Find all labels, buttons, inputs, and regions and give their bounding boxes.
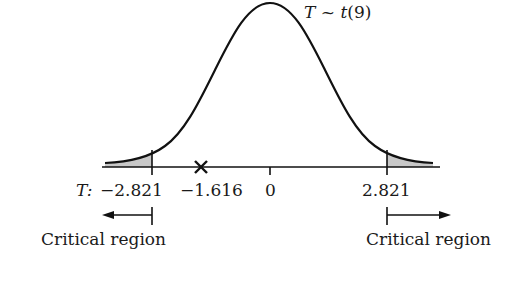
right-arrow-icon — [387, 207, 451, 225]
tick-label-pos-critical: 2.821 — [362, 182, 411, 199]
distribution-label: T ~ t(9) — [304, 4, 371, 21]
right-critical-region-label: Critical region — [366, 231, 491, 248]
left-arrow-icon — [102, 207, 152, 225]
tick-label-neg-critical: −2.821 — [100, 182, 163, 199]
t-distribution-diagram: T ~ t(9) T: −2.821 −1.616 0 2.821 Critic… — [0, 0, 523, 283]
density-curve — [105, 3, 433, 163]
left-critical-region-label: Critical region — [41, 231, 166, 248]
test-statistic-label: −1.616 — [180, 182, 243, 199]
dist-var: T — [304, 2, 315, 22]
dist-tilde: ~ — [321, 2, 335, 22]
axis-variable-label: T: — [76, 182, 92, 199]
tick-label-zero: 0 — [265, 182, 276, 199]
dist-df: (9) — [347, 2, 371, 22]
